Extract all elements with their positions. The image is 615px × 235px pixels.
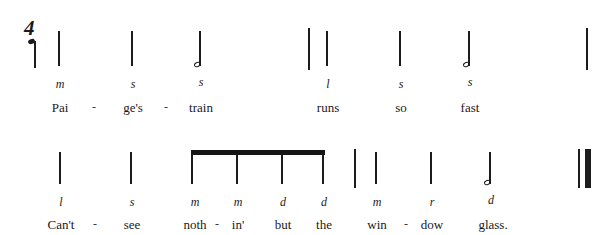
note-stem-s-3 [399,31,401,66]
music-score-sheet: 4 m s s l s s Pai - g [0,0,615,235]
solfege-syllable: s [399,78,404,90]
barline-end-1 [586,28,588,70]
solfege-syllable: s [130,196,135,208]
lyric-syllable: the [316,218,332,231]
note-stem-m-2 [191,154,193,184]
solfege-syllable: l [326,78,329,90]
note-stem-l-1 [326,31,328,66]
solfege-syllable: m [56,78,65,90]
solfege-syllable: m [234,196,243,208]
time-signature: 4 [24,18,34,39]
lyric-syllable: Pai [52,101,69,114]
lyric-hyphen: - [93,218,97,230]
lyric-syllable: runs [317,101,339,114]
music-system-1: 4 m s s l s s Pai - g [0,0,615,118]
lyric-syllable: win [367,218,387,231]
solfege-syllable: m [191,196,200,208]
note-stem [34,41,36,68]
lyric-syllable: in' [232,218,244,231]
solfege-syllable: d [321,196,327,208]
note-stem-d-2 [322,154,324,184]
lyric-hyphen: - [404,218,408,230]
lyric-syllable: but [275,218,292,231]
note-stem-l-2 [59,152,61,184]
lyric-syllable: Can't [48,218,75,231]
lyric-syllable: noth [183,218,206,231]
solfege-syllable: l [59,196,62,208]
lyric-syllable: dow [421,218,443,231]
barline-thin [578,149,580,188]
lyric-syllable: glass. [478,218,507,231]
note-stem-r-1 [430,152,432,184]
barline-thick [585,149,591,188]
lyric-hyphen: - [92,101,96,113]
solfege-syllable: r [430,196,435,208]
lyric-hyphen: - [215,218,219,230]
note-stem-d-1 [281,154,283,184]
lyric-syllable: see [124,218,141,231]
solfege-syllable: d [280,196,286,208]
barline-middle-1 [308,28,310,70]
notehead-small [483,179,492,187]
notehead-small [462,61,471,69]
lyric-syllable: ge's [123,101,143,114]
lyric-syllable: so [395,101,407,114]
solfege-syllable: s [199,76,204,88]
music-system-2: l s m m d d m r d Can't - see noth - in'… [0,118,615,235]
note-stem-m-1 [58,31,60,66]
lyric-syllable: fast [461,101,480,114]
solfege-syllable: s [468,76,473,88]
notehead-small [193,61,202,69]
solfege-syllable: d [488,194,494,206]
beam-bar [191,150,325,155]
solfege-syllable: s [131,78,136,90]
note-stem-s-1 [131,31,133,66]
note-stem-s-5 [130,152,132,184]
note-stem-m-3 [236,154,238,184]
solfege-syllable: m [373,196,382,208]
note-stem-m-4 [375,152,377,184]
barline-middle-2 [354,149,356,188]
lyric-syllable: train [189,101,213,114]
lyric-hyphen: - [164,101,168,113]
